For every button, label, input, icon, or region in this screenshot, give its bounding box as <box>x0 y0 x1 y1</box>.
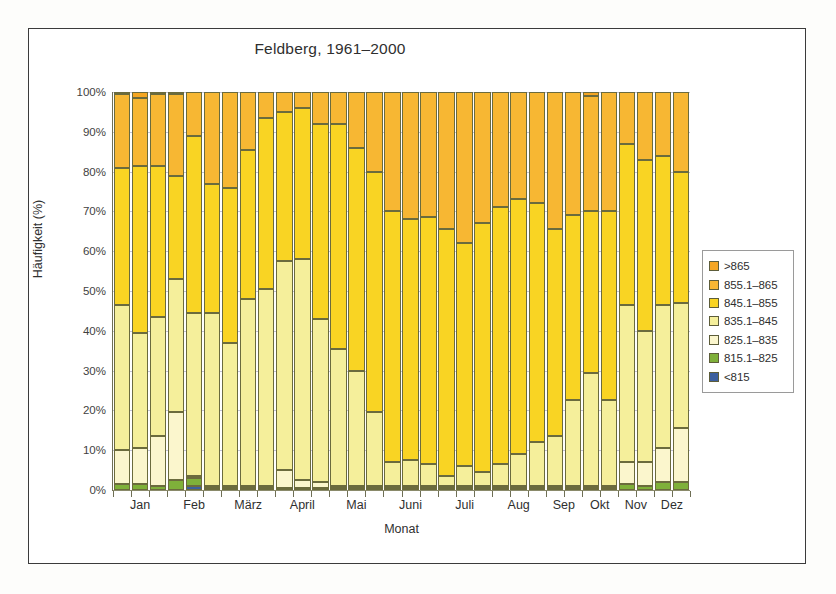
stacked-bar[interactable] <box>529 92 545 490</box>
bar-segment <box>619 484 635 490</box>
x-tick <box>690 491 691 497</box>
bar-segment <box>168 92 184 94</box>
x-tick <box>365 491 366 497</box>
bar-segment <box>619 462 635 484</box>
bar-segment <box>583 92 599 96</box>
y-tick-label: 70% <box>83 205 106 217</box>
month-label: Feb <box>183 498 205 512</box>
legend-item[interactable]: 835.1–845 <box>709 312 787 330</box>
bar-segment <box>222 343 238 486</box>
bar-segment <box>384 486 400 488</box>
bar-segment <box>276 261 292 470</box>
legend-label: 815.1–825 <box>724 352 777 364</box>
bar-segment <box>276 92 292 112</box>
stacked-bar[interactable] <box>583 92 599 490</box>
bar-segment <box>637 462 653 486</box>
x-tick <box>420 491 421 497</box>
legend-item[interactable]: <815 <box>709 367 787 385</box>
bar-segment <box>601 486 617 488</box>
stacked-bar[interactable] <box>348 92 364 490</box>
bar-segment <box>222 188 238 343</box>
bar-segment <box>330 92 346 124</box>
bar-segment <box>168 176 184 279</box>
legend-item[interactable]: 855.1–865 <box>709 275 787 293</box>
stacked-bar[interactable] <box>114 92 130 490</box>
stacked-bar[interactable] <box>474 92 490 490</box>
x-tick <box>257 491 258 497</box>
bar-segment <box>420 464 436 486</box>
x-tick <box>636 491 637 497</box>
month-label: Jan <box>130 498 150 512</box>
stacked-bar[interactable] <box>637 92 653 490</box>
legend-item[interactable]: 815.1–825 <box>709 349 787 367</box>
stacked-bar[interactable] <box>168 92 184 490</box>
bar-segment <box>637 160 653 331</box>
bar-segment <box>565 215 581 400</box>
bar-segment <box>294 259 310 480</box>
bar-segment <box>529 486 545 488</box>
stacked-bar[interactable] <box>186 92 202 490</box>
bar-segment <box>673 92 689 172</box>
legend-swatch-icon <box>709 280 719 290</box>
legend-item[interactable]: >865 <box>709 257 787 275</box>
legend-swatch-icon <box>709 335 719 345</box>
stacked-bar[interactable] <box>601 92 617 490</box>
x-tick <box>456 491 457 497</box>
bar-segment <box>438 229 454 476</box>
legend-label: 845.1–855 <box>724 297 777 309</box>
stacked-bar[interactable] <box>547 92 563 490</box>
bar-segment <box>474 472 490 486</box>
bar-segment <box>510 488 526 490</box>
bar-segment <box>366 412 382 486</box>
legend-item[interactable]: 845.1–855 <box>709 294 787 312</box>
y-tick-label: 80% <box>83 166 106 178</box>
stacked-bar[interactable] <box>222 92 238 490</box>
legend-label: <815 <box>724 371 750 383</box>
stacked-bar[interactable] <box>438 92 454 490</box>
bar-segment <box>529 488 545 490</box>
legend-swatch-icon <box>709 261 719 271</box>
bar-segment <box>565 488 581 490</box>
bar-segment <box>330 486 346 488</box>
x-tick <box>311 491 312 497</box>
month-label: Mai <box>346 498 366 512</box>
bar-segment <box>547 229 563 436</box>
bar-segment <box>294 92 310 108</box>
bar-segment <box>150 486 166 490</box>
bar-segment <box>222 92 238 188</box>
stacked-bar[interactable] <box>492 92 508 490</box>
x-tick <box>546 491 547 497</box>
stacked-bar[interactable] <box>150 92 166 490</box>
stacked-bar[interactable] <box>565 92 581 490</box>
stacked-bar[interactable] <box>258 92 274 490</box>
stacked-bar[interactable] <box>402 92 418 490</box>
legend-item[interactable]: 825.1–835 <box>709 331 787 349</box>
x-tick <box>510 491 511 497</box>
stacked-bar[interactable] <box>510 92 526 490</box>
stacked-bar[interactable] <box>294 92 310 490</box>
stacked-bar[interactable] <box>240 92 256 490</box>
legend-label: >865 <box>724 260 750 272</box>
bar-segment <box>114 92 130 94</box>
bar-segment <box>601 400 617 486</box>
stacked-bar[interactable] <box>132 92 148 490</box>
bar-segment <box>204 313 220 486</box>
month-label: April <box>290 498 315 512</box>
stacked-bar[interactable] <box>204 92 220 490</box>
stacked-bar[interactable] <box>456 92 472 490</box>
x-tick <box>131 491 132 497</box>
stacked-bar[interactable] <box>673 92 689 490</box>
bar-segment <box>348 148 364 371</box>
bar-segment <box>348 488 364 490</box>
stacked-bar[interactable] <box>655 92 671 490</box>
stacked-bar[interactable] <box>276 92 292 490</box>
stacked-bar[interactable] <box>619 92 635 490</box>
stacked-bar[interactable] <box>384 92 400 490</box>
stacked-bar[interactable] <box>420 92 436 490</box>
legend-swatch-icon <box>709 372 719 382</box>
stacked-bar[interactable] <box>330 92 346 490</box>
y-tick-label: 10% <box>83 444 106 456</box>
stacked-bar[interactable] <box>312 92 328 490</box>
stacked-bar[interactable] <box>366 92 382 490</box>
bar-segment <box>456 243 472 466</box>
